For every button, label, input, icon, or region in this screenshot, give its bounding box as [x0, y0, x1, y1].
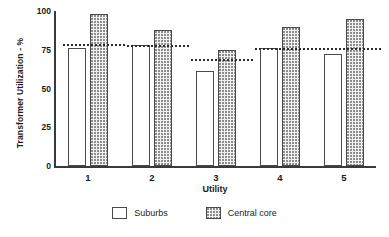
- reference-line-2: [127, 45, 189, 47]
- x-tick-label-4: 4: [260, 172, 300, 183]
- bar-suburbs-3: [196, 71, 214, 166]
- bar-suburbs-2: [132, 45, 150, 166]
- reference-line-4: [255, 48, 317, 50]
- chart-legend: Suburbs Central core: [0, 207, 389, 219]
- plot-area: 1 2 3 4 5: [55, 11, 375, 166]
- bar-central-core-2: [154, 30, 172, 166]
- legend-swatch-suburbs-icon: [112, 207, 127, 219]
- bar-group-5: [324, 11, 364, 166]
- legend-swatch-central-core-icon: [206, 207, 221, 219]
- bar-suburbs-5: [324, 54, 342, 166]
- x-axis-title: Utility: [55, 184, 375, 194]
- reference-line-3: [191, 59, 253, 61]
- bar-group-3: [196, 11, 236, 166]
- y-tick-label-100: 100: [25, 7, 51, 16]
- reference-line-5: [319, 48, 381, 50]
- y-tick-label-25: 25: [25, 123, 51, 132]
- x-tick-label-5: 5: [324, 172, 364, 183]
- bar-central-core-5: [346, 19, 364, 166]
- y-axis-tick-labels: 100 75 50 25 0: [23, 11, 51, 166]
- x-tick-label-2: 2: [132, 172, 172, 183]
- bar-central-core-1: [90, 14, 108, 166]
- legend-entry-central-core: Central core: [206, 207, 277, 219]
- y-tick-label-75: 75: [25, 46, 51, 55]
- bar-chart: Transformer Utilization - % 100 75 50 25…: [0, 0, 389, 237]
- legend-label-suburbs: Suburbs: [134, 208, 168, 218]
- y-axis-line: [54, 11, 56, 167]
- bar-group-2: [132, 11, 172, 166]
- x-tick-label-3: 3: [196, 172, 236, 183]
- x-axis-line: [54, 166, 376, 168]
- reference-line-1: [63, 44, 125, 46]
- bar-suburbs-1: [68, 48, 86, 166]
- bar-suburbs-4: [260, 48, 278, 166]
- x-tick-label-1: 1: [68, 172, 108, 183]
- bar-central-core-3: [218, 50, 236, 166]
- legend-label-central-core: Central core: [228, 208, 277, 218]
- y-tick-label-50: 50: [25, 85, 51, 94]
- y-tick-label-0: 0: [25, 162, 51, 171]
- legend-entry-suburbs: Suburbs: [112, 207, 168, 219]
- bar-group-4: [260, 11, 300, 166]
- bar-group-1: [68, 11, 108, 166]
